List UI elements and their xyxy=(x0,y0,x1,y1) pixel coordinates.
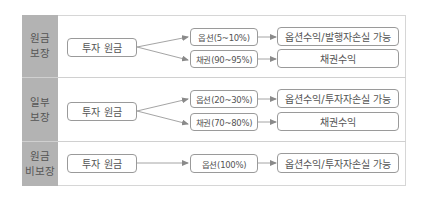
result-box: 옵션수익/발행자손실 가능 xyxy=(277,27,399,46)
allocation-box-bond: 채권(90~95%) xyxy=(190,50,258,68)
allocation-box-option: 옵션(5~10%) xyxy=(190,28,258,46)
source-box: 투자 원금 xyxy=(67,102,137,121)
result-box: 옵션수익/투자자손실 가능 xyxy=(277,153,399,173)
result-box: 옵션수익/투자자손실 가능 xyxy=(277,89,399,108)
allocation-box-option: 옵션(100%) xyxy=(190,154,258,173)
source-box: 투자 원금 xyxy=(67,38,137,57)
result-box: 채권수익 xyxy=(277,49,399,68)
allocation-box-bond: 채권(70~80%) xyxy=(190,113,258,131)
source-box: 투자 원금 xyxy=(67,154,137,173)
result-box: 채권수익 xyxy=(277,112,399,131)
allocation-box-option: 옵션(20~30%) xyxy=(190,90,258,108)
